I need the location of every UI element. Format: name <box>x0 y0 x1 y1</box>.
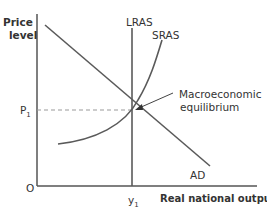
y-axis-label-line2: level <box>9 29 37 41</box>
y-axis-label-line1: Price <box>3 16 33 28</box>
origin-label: O <box>26 182 34 194</box>
annotation-line2: equilibrium <box>180 101 239 113</box>
sras-curve <box>58 40 162 144</box>
ad-label: AD <box>190 169 205 181</box>
output-subscript: 1 <box>134 201 138 209</box>
sras-label: SRAS <box>152 29 179 41</box>
annotation-line1: Macroeconomic <box>179 88 261 100</box>
price-p1-label: P1 <box>20 104 31 121</box>
price-subscript: 1 <box>26 111 30 119</box>
x-axis-label: Real national output <box>160 193 267 205</box>
output-y1-label: y1 <box>128 194 139 211</box>
annotation-arrow-line <box>139 93 173 108</box>
lras-label: LRAS <box>126 16 153 28</box>
